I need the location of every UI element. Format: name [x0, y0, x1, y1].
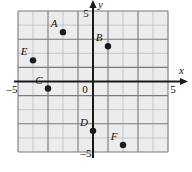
tick-label-x-max: 5 — [170, 83, 176, 95]
y-axis-arrowhead — [89, 0, 96, 8]
point-marker-f — [120, 142, 126, 148]
point-label-f: F — [110, 130, 118, 142]
tick-label-y-max: 5 — [83, 7, 89, 19]
x-axis-arrowhead — [180, 78, 188, 85]
point-label-a: A — [50, 17, 58, 29]
point-marker-b — [105, 43, 111, 49]
point-label-c: C — [35, 74, 43, 86]
point-label-e: E — [20, 45, 28, 57]
tick-label-x-min: –5 — [6, 83, 19, 95]
y-axis-label: y — [97, 0, 103, 10]
point-marker-e — [30, 57, 36, 63]
origin-label: 0 — [82, 83, 88, 95]
point-label-b: B — [96, 31, 103, 43]
point-label-d: D — [79, 116, 88, 128]
tick-label-y-min: –5 — [80, 147, 93, 159]
coordinate-plane-figure: x y –5 5 5 –5 0 ABECDF — [0, 0, 192, 172]
point-marker-a — [60, 29, 66, 35]
point-marker-c — [45, 85, 51, 91]
x-axis-label: x — [178, 64, 184, 76]
point-marker-d — [90, 128, 96, 134]
coordinate-plane-svg: x y –5 5 5 –5 0 ABECDF — [0, 0, 192, 172]
